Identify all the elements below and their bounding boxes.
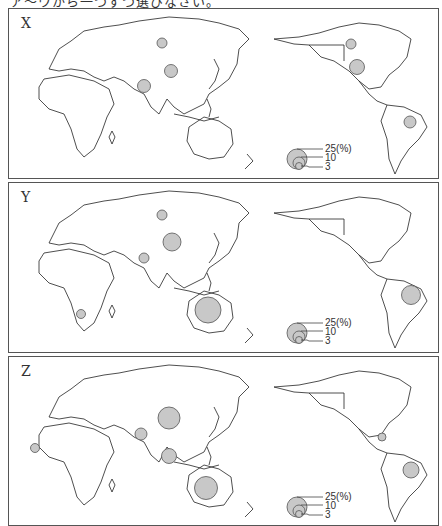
circle-brazil bbox=[402, 286, 421, 305]
legend-x: 25(%) 10 3 bbox=[287, 143, 352, 172]
circle-australia bbox=[195, 477, 218, 500]
legend-label-3: 3 bbox=[325, 335, 331, 346]
circle-russia bbox=[157, 38, 167, 48]
circle-india bbox=[135, 428, 147, 440]
map-panel-x: 25(%) 10 3 X bbox=[8, 8, 439, 179]
circle-indonesia bbox=[162, 449, 177, 464]
legend-z: 25(%) 10 3 bbox=[287, 491, 352, 520]
circle-brazil bbox=[404, 116, 416, 128]
circle-india bbox=[138, 80, 151, 93]
circle-china bbox=[165, 65, 178, 78]
circle-russia bbox=[157, 210, 167, 220]
panel-label-z: Z bbox=[21, 363, 31, 379]
circle-brazil bbox=[403, 462, 419, 478]
world-map-z: 25(%) 10 3 bbox=[9, 357, 439, 526]
world-map-y: 25(%) 10 3 bbox=[9, 183, 439, 353]
circle-guinea bbox=[31, 444, 40, 453]
map-panel-z: 25(%) 10 3 Z bbox=[8, 356, 439, 526]
circle-china bbox=[158, 407, 180, 429]
circles-y bbox=[77, 210, 421, 323]
circles-z bbox=[31, 407, 420, 500]
circle-united-states bbox=[350, 60, 365, 75]
circle-china bbox=[163, 233, 181, 251]
circle-india bbox=[139, 253, 149, 263]
circles-x bbox=[138, 38, 417, 128]
map-panel-y: 25(%) 10 3 Y bbox=[8, 182, 439, 353]
legend-label-3: 3 bbox=[325, 161, 331, 172]
circle-jamaica bbox=[378, 433, 386, 441]
world-map-x: 25(%) 10 3 bbox=[9, 9, 439, 179]
circle-south-africa bbox=[77, 310, 86, 319]
panel-label-y: Y bbox=[21, 189, 30, 205]
legend-label-3: 3 bbox=[325, 509, 331, 520]
circle-canada bbox=[346, 39, 356, 49]
legend-y: 25(%) 10 3 bbox=[287, 317, 352, 346]
panel-label-x: X bbox=[21, 15, 31, 31]
circle-australia bbox=[195, 297, 221, 323]
